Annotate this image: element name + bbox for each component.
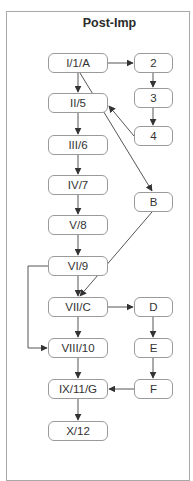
node-4: 4: [134, 126, 173, 146]
node-b: B: [134, 192, 173, 212]
node-e: E: [134, 338, 173, 358]
edge-4-to-ii: [109, 106, 134, 136]
node-viii-10: VIII/10: [48, 338, 108, 358]
node-vii-c: VII/C: [48, 297, 108, 317]
node-ix-11-g: IX/11/G: [48, 379, 108, 399]
node-iii-6: III/6: [48, 135, 108, 155]
node-iv-7: IV/7: [48, 175, 108, 195]
node-f: F: [134, 379, 173, 399]
node-i-1-a: I/1/A: [48, 53, 108, 73]
node-3: 3: [134, 88, 173, 108]
node-d: D: [134, 297, 173, 317]
node-v-8: V/8: [48, 215, 108, 235]
node-ii-5: II/5: [48, 93, 108, 113]
node-x-12: X/12: [48, 421, 108, 441]
edge-vi-to-viii: [28, 266, 48, 348]
node-2: 2: [134, 53, 173, 73]
node-vi-9: VI/9: [48, 256, 108, 276]
